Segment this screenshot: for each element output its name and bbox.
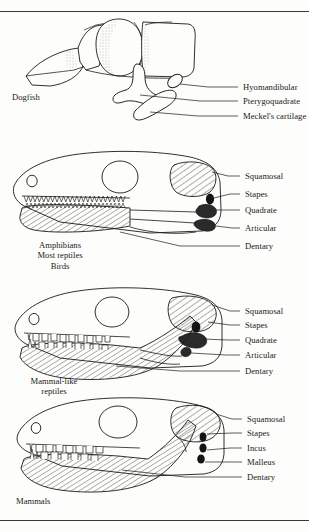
- stapes-shape: [206, 194, 214, 205]
- mammal-like-reptile-skull-art: [15, 288, 222, 380]
- orbit: [95, 297, 129, 327]
- label-quadrate-amphibian: Quadrate: [245, 205, 277, 215]
- label-stapes-mammal: Stapes: [247, 428, 270, 438]
- label-squamosal-mammal: Squamosal: [247, 414, 285, 424]
- articular-shape: [180, 346, 193, 358]
- top-rule: [0, 11, 309, 12]
- group-label-line-1: Mammal-like: [12, 376, 96, 386]
- label-dentary-mammal: Dentary: [247, 472, 275, 482]
- label-stapes-mammal-like-reptile: Stapes: [245, 320, 268, 330]
- upper-teeth: [24, 196, 125, 202]
- orbit: [102, 161, 138, 193]
- pterygoquadrate-shape: [113, 64, 166, 108]
- group-label-line-2: reptiles: [12, 386, 96, 396]
- label-pterygoquadrate: Pterygoquadrate: [243, 96, 300, 106]
- group-label-line-2: Most reptiles: [12, 250, 108, 260]
- leader-hyomandibular: [180, 84, 238, 87]
- label-dentary-mammal-like-reptile: Dentary: [245, 366, 273, 376]
- bottom-rule: [0, 520, 309, 521]
- nostril: [29, 313, 39, 324]
- dentary-shape: [20, 205, 130, 232]
- group-label-dogfish: Dogfish: [12, 92, 40, 102]
- meckels-cartilage-shape: [134, 90, 177, 120]
- group-label-mammals: Mammals: [16, 496, 50, 506]
- label-meckels-cartilage: Meckel's cartilage: [243, 111, 306, 121]
- leader-squamosal: [216, 414, 242, 419]
- leader-incus: [207, 448, 242, 450]
- mammal-skull-art: [17, 398, 224, 492]
- leader-stapes: [214, 194, 240, 198]
- dogfish-skull-art: [26, 19, 195, 120]
- amphibian-skull-art: [13, 151, 221, 233]
- dentary-shape: [21, 420, 196, 492]
- group-label-line-1: Amphibians: [12, 240, 108, 250]
- mammal-like-reptile-leader-lines: [116, 305, 240, 371]
- label-squamosal-amphibian: Squamosal: [245, 171, 283, 181]
- lower-teeth: [28, 339, 108, 350]
- upper-teeth: [28, 333, 110, 343]
- stapes-shape: [200, 433, 207, 442]
- amphibian-leader-lines: [120, 172, 240, 246]
- incus-shape: [199, 443, 206, 452]
- dentary-shape: [20, 316, 196, 380]
- leader-articular: [191, 353, 240, 355]
- group-label-amphibians: Amphibians Most reptiles Birds: [12, 240, 108, 271]
- leader-meckels-cartilage: [150, 112, 238, 116]
- leader-squamosal: [212, 172, 240, 176]
- mammal-leader-lines: [122, 414, 242, 477]
- label-articular-mammal-like-reptile: Articular: [245, 350, 276, 360]
- lower-teeth: [25, 203, 125, 208]
- label-dentary-amphibian: Dentary: [245, 241, 273, 251]
- squamosal-shape: [170, 162, 216, 197]
- nostril: [27, 175, 37, 187]
- label-stapes-amphibian: Stapes: [245, 189, 268, 199]
- group-label-line-3: Birds: [12, 261, 108, 271]
- dogfish-leader-lines: [140, 84, 238, 116]
- label-quadrate-mammal-like-reptile: Quadrate: [245, 335, 277, 345]
- orbit: [99, 406, 137, 438]
- malleus-shape: [197, 454, 205, 463]
- upper-teeth: [30, 444, 103, 453]
- leader-dentary: [120, 232, 240, 246]
- quadrate-shape: [196, 204, 217, 218]
- quadrate-shape: [179, 333, 207, 348]
- leader-squamosal: [212, 305, 240, 311]
- figure-canvas: Dogfish Hyomandibular Pterygoquadrate Me…: [0, 0, 309, 532]
- squamosal-shape: [171, 405, 220, 442]
- nostril: [31, 423, 41, 434]
- label-malleus-mammal: Malleus: [247, 457, 275, 467]
- label-articular-amphibian: Articular: [245, 223, 276, 233]
- group-label-mammal-like-reptiles: Mammal-like reptiles: [12, 376, 96, 397]
- label-hyomandibular: Hyomandibular: [243, 82, 298, 92]
- leader-articular: [216, 226, 240, 228]
- squamosal-shape: [168, 296, 216, 332]
- stapes-shape: [192, 321, 201, 332]
- articular-shape: [194, 219, 216, 231]
- leader-dentary: [116, 366, 240, 371]
- leader-quadrate: [203, 339, 240, 340]
- label-squamosal-mammal-like-reptile: Squamosal: [245, 306, 283, 316]
- leader-stapes: [208, 322, 240, 325]
- lower-teeth: [30, 449, 98, 461]
- leader-stapes: [207, 433, 242, 434]
- hyomandibular-shape: [165, 72, 185, 91]
- label-incus-mammal: Incus: [247, 443, 266, 453]
- leader-dentary: [122, 470, 242, 477]
- leader-pterygoquadrate: [140, 95, 238, 101]
